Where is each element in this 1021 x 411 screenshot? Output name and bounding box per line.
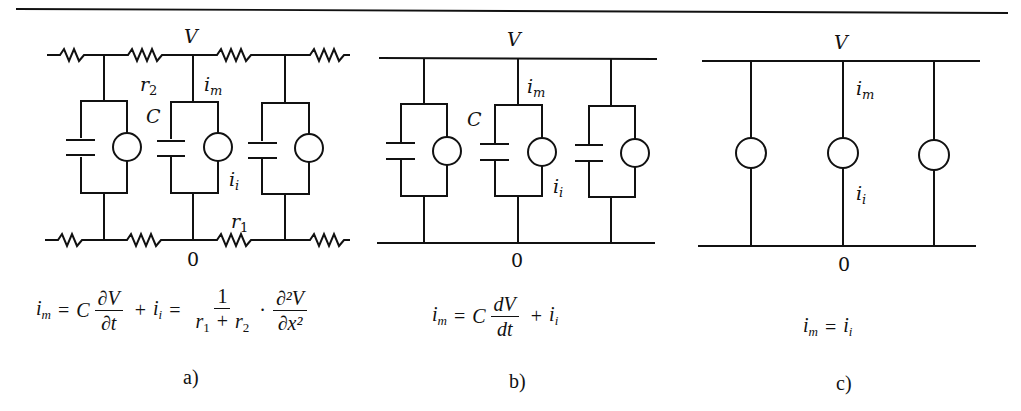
equation-b: im = C dVdt + ii <box>432 289 558 343</box>
circuit-diagrams <box>0 0 1021 411</box>
membrane-unit-a3 <box>248 55 323 240</box>
membrane-unit-c3 <box>919 61 949 246</box>
label-im-c: im <box>856 79 874 101</box>
membrane-unit-b1 <box>386 58 461 243</box>
label-ground-c: 0 <box>838 255 850 274</box>
panel-b-circuit <box>377 58 657 243</box>
label-ii-c: ii <box>856 184 866 206</box>
label-ground-b: 0 <box>511 251 523 270</box>
caption-c: c) <box>836 372 852 395</box>
label-voltage-c: V <box>834 33 848 52</box>
label-voltage-b: V <box>507 30 521 49</box>
label-capacitance-b: C <box>467 110 482 129</box>
label-ii-b: ii <box>553 177 563 199</box>
caption-b: b) <box>509 370 526 393</box>
top-rail-resistors <box>47 49 350 61</box>
label-r2-a: r2 <box>140 75 157 97</box>
label-im-a: im <box>204 75 222 97</box>
panel-a-circuit <box>45 49 350 246</box>
label-ii-a: ii <box>229 170 239 192</box>
caption-a: a) <box>183 366 199 389</box>
membrane-unit-a1 <box>66 55 141 240</box>
top-rule <box>16 9 1008 13</box>
label-ground-a: 0 <box>187 250 199 269</box>
bottom-rail-resistors <box>45 234 350 246</box>
equation-c: im = ii <box>803 312 852 342</box>
membrane-unit-b3 <box>575 59 649 243</box>
label-r1-a: r1 <box>231 212 248 234</box>
label-im-b: im <box>527 77 545 99</box>
label-capacitance-a: C <box>146 107 161 126</box>
membrane-unit-c2 <box>828 61 858 246</box>
equation-a: im = C ∂V∂t + ii = 1r1+r2 · ∂²V∂x² <box>36 283 312 337</box>
membrane-unit-c1 <box>736 61 766 246</box>
panel-c-circuit <box>698 61 980 246</box>
label-voltage-a: V <box>184 27 198 46</box>
